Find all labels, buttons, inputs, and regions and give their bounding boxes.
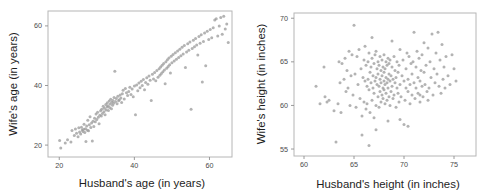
scatter-point bbox=[373, 62, 376, 65]
scatter-point bbox=[407, 90, 410, 93]
scatter-point bbox=[409, 83, 412, 86]
scatter-point bbox=[141, 84, 144, 87]
x-tick-label: 20 bbox=[55, 161, 63, 170]
scatter-point bbox=[418, 57, 421, 60]
scatter-point bbox=[453, 67, 456, 70]
scatter-point bbox=[421, 53, 424, 56]
scatter-point bbox=[319, 102, 322, 105]
scatter-point bbox=[427, 99, 430, 102]
scatter-point bbox=[358, 48, 361, 51]
scatter-point bbox=[218, 24, 221, 27]
scatter-point bbox=[190, 108, 193, 111]
scatter-point bbox=[201, 80, 204, 83]
scatter-point bbox=[337, 102, 340, 105]
scatter-point bbox=[370, 66, 373, 69]
scatter-point bbox=[430, 76, 433, 79]
scatter-point bbox=[383, 53, 386, 56]
scatter-point bbox=[366, 85, 369, 88]
scatter-point bbox=[362, 76, 365, 79]
scatter-point bbox=[59, 147, 62, 150]
scatter-point bbox=[384, 102, 387, 105]
scatter-point bbox=[339, 81, 342, 84]
scatter-point bbox=[428, 86, 431, 89]
scatter-point bbox=[438, 85, 441, 88]
scatter-point bbox=[451, 53, 454, 56]
scatter-point bbox=[131, 88, 134, 91]
scatter-point bbox=[376, 67, 379, 70]
scatter-point bbox=[434, 81, 437, 84]
y-tick-label: 40 bbox=[34, 81, 42, 90]
scatter-point bbox=[363, 100, 366, 103]
scatter-point bbox=[416, 50, 419, 53]
scatter-point bbox=[381, 93, 384, 96]
scatter-point bbox=[411, 73, 414, 76]
scatter-point bbox=[194, 37, 197, 40]
scatterplot-panel-height: 5560657060657075Husband's height (in inc… bbox=[251, 0, 502, 196]
scatter-point bbox=[119, 97, 122, 100]
scatter-point bbox=[380, 69, 383, 72]
scatter-point bbox=[383, 80, 386, 83]
y-tick-label: 65 bbox=[280, 57, 288, 66]
scatter-point bbox=[113, 70, 116, 73]
scatter-point bbox=[361, 114, 364, 117]
y-axis-title: Wife's age (in years) bbox=[7, 32, 19, 136]
scatter-point bbox=[224, 27, 227, 30]
scatter-point bbox=[221, 33, 224, 36]
scatter-point bbox=[333, 109, 336, 112]
scatter-point bbox=[399, 48, 402, 51]
scatter-point bbox=[403, 80, 406, 83]
scatter-point bbox=[398, 64, 401, 67]
scatter-point bbox=[388, 95, 391, 98]
scatter-point bbox=[394, 69, 397, 72]
scatter-point bbox=[402, 59, 405, 62]
scatter-point bbox=[374, 53, 377, 56]
scatter-point bbox=[389, 59, 392, 62]
scatter-point bbox=[377, 95, 380, 98]
scatter-point bbox=[399, 118, 402, 121]
scatter-point bbox=[369, 71, 372, 74]
scatter-point bbox=[390, 74, 393, 77]
scatter-point bbox=[323, 66, 326, 69]
scatter-point bbox=[129, 93, 132, 96]
scatter-point bbox=[139, 86, 142, 89]
scatter-point bbox=[341, 62, 344, 65]
scatter-point bbox=[401, 74, 404, 77]
scatter-point bbox=[435, 52, 438, 55]
scatter-point bbox=[383, 71, 386, 74]
scatter-point bbox=[120, 101, 123, 104]
scatter-point bbox=[436, 73, 439, 76]
scatter-point bbox=[69, 141, 72, 144]
scatter-point bbox=[387, 86, 390, 89]
scatter-point bbox=[146, 83, 149, 86]
scatter-point bbox=[455, 80, 458, 83]
scatter-point bbox=[370, 81, 373, 84]
scatter-point bbox=[391, 66, 394, 69]
scatter-point bbox=[374, 80, 377, 83]
scatter-point bbox=[355, 106, 358, 109]
scatter-point bbox=[352, 93, 355, 96]
scatter-point bbox=[126, 94, 129, 97]
scatter-point bbox=[98, 122, 101, 125]
scatter-point bbox=[206, 30, 209, 33]
scatter-point bbox=[199, 42, 202, 45]
scatter-point bbox=[377, 60, 380, 63]
scatter-point bbox=[423, 71, 426, 74]
scatter-point bbox=[405, 67, 408, 70]
scatter-point bbox=[66, 138, 69, 141]
scatter-point bbox=[91, 139, 94, 142]
scatter-point bbox=[367, 60, 370, 63]
scatter-point bbox=[124, 87, 127, 90]
scatter-point bbox=[415, 86, 418, 89]
scatter-point bbox=[372, 74, 375, 77]
two-panel-scatterplot-figure: 204060204060Husband's age (in years)Wife… bbox=[0, 0, 502, 196]
scatter-point bbox=[344, 57, 347, 60]
scatter-point bbox=[77, 135, 80, 138]
scatter-point bbox=[408, 55, 411, 58]
scatter-point bbox=[417, 76, 420, 79]
scatter-point bbox=[154, 79, 157, 82]
scatter-point bbox=[83, 123, 86, 126]
scatter-points-group bbox=[58, 15, 230, 150]
scatter-point bbox=[420, 69, 423, 72]
scatter-point bbox=[424, 83, 427, 86]
scatter-point bbox=[351, 53, 354, 56]
